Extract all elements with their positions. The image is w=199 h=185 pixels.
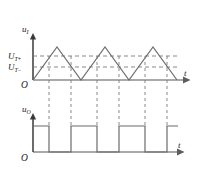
lower-x-axis-label: t (178, 140, 181, 150)
connector-lines-group (49, 56, 167, 126)
lower-y-axis-label: uO (22, 104, 32, 115)
output-square-waveform (33, 126, 178, 152)
lower-origin-label: O (21, 153, 28, 163)
threshold-positive-label: UT+ (8, 51, 22, 62)
upper-plot-group: uI UT+ UT− O t (8, 24, 191, 90)
upper-origin-label: O (21, 80, 28, 90)
upper-y-axis-label: uI (22, 24, 30, 35)
schmitt-trigger-waveform-figure: uI UT+ UT− O t uO (0, 0, 199, 185)
lower-plot-group: uO O t (21, 104, 185, 163)
upper-u-axis-arrow-icon (30, 33, 36, 40)
threshold-negative-label: UT− (8, 62, 22, 73)
waveform-canvas: uI UT+ UT− O t uO (0, 0, 199, 185)
upper-x-axis-label: t (184, 68, 187, 78)
input-triangle-waveform (33, 47, 177, 80)
